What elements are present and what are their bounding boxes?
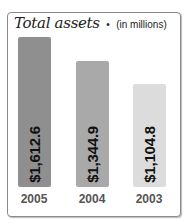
bar-value-label: $1,104.8 (141, 126, 158, 183)
chart-title-main: Total assets (14, 14, 100, 32)
bar-2004: $1,344.9 (76, 61, 109, 187)
chart-title-sub: (in millions) (116, 19, 167, 30)
x-tick-2004: 2004 (72, 192, 112, 206)
chart-title: Total assets • (in millions) (14, 14, 167, 32)
x-tick-2003: 2003 (129, 192, 169, 206)
chart-title-separator: • (106, 19, 110, 30)
x-tick-2005: 2005 (14, 192, 54, 206)
bar-2005: $1,612.6 (18, 37, 51, 187)
bar-value-label: $1,344.9 (84, 126, 101, 183)
bar-2003: $1,104.8 (133, 84, 166, 187)
bar-value-label: $1,612.6 (26, 126, 43, 183)
